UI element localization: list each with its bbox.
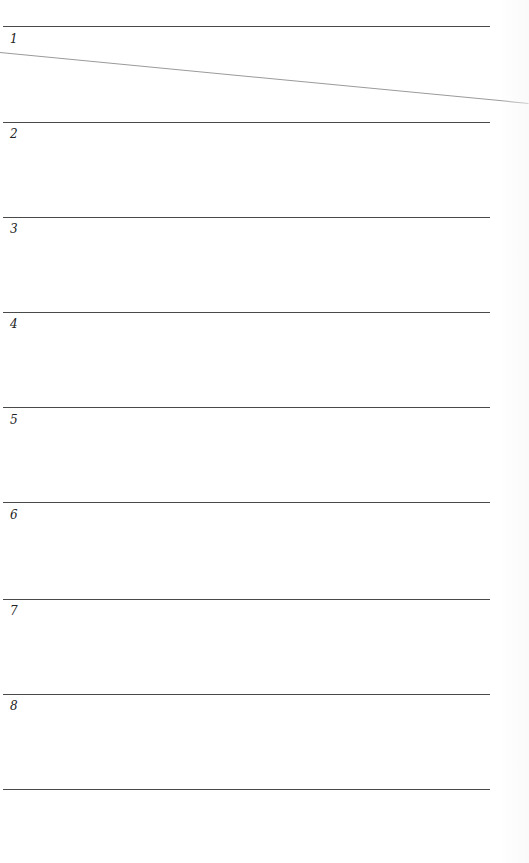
entry-number: 3 bbox=[10, 223, 18, 235]
divider-rule bbox=[3, 122, 490, 123]
divider-rule bbox=[3, 694, 490, 695]
divider-rule bbox=[3, 502, 490, 503]
divider-rule bbox=[3, 599, 490, 600]
entry-number: 8 bbox=[10, 700, 18, 712]
divider-rule bbox=[3, 312, 490, 313]
divider-rule bbox=[3, 26, 490, 27]
entry-number: 2 bbox=[10, 128, 18, 140]
scan-edge-shading bbox=[499, 0, 529, 863]
divider-rule bbox=[3, 789, 490, 790]
entry-number: 7 bbox=[10, 605, 18, 617]
entry-number: 4 bbox=[10, 318, 18, 330]
divider-rule bbox=[3, 407, 490, 408]
divider-rule bbox=[3, 217, 490, 218]
stray-diagonal-line bbox=[0, 52, 529, 104]
entry-number: 1 bbox=[10, 33, 18, 45]
entry-number: 6 bbox=[10, 509, 18, 521]
entry-number: 5 bbox=[10, 414, 18, 426]
